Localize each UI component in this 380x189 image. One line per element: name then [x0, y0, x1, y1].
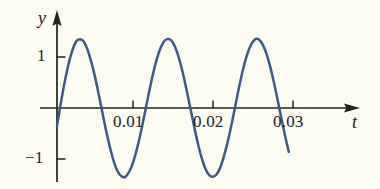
- y-tick-label-minus-1: −1: [25, 148, 44, 168]
- x-tick-label-0.01: 0.01: [113, 112, 144, 132]
- y-axis-label: y: [38, 8, 46, 29]
- x-tick-label-0.02: 0.02: [193, 112, 224, 132]
- sine-wave-plot: [0, 0, 380, 189]
- x-axis-label: t: [352, 112, 357, 133]
- figure-container: 0.01 0.02 0.03 1 −1 y t: [0, 0, 380, 189]
- y-tick-label-1: 1: [37, 46, 46, 66]
- x-tick-label-0.03: 0.03: [273, 112, 304, 132]
